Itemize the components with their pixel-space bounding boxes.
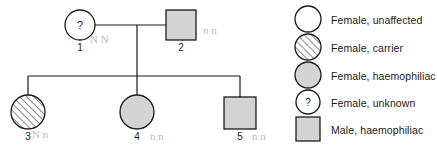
legend-entry-label-1: Female, unaffected [331,15,423,26]
legend-symbol-3 [295,62,321,88]
legend-entry-label-4: Female, unknown [331,98,415,109]
legend-entry-label-2: Female, carrier [331,43,403,54]
legend-symbol-2 [295,34,321,60]
legend-symbol-5 [296,117,320,141]
legend-question-mark-icon: ? [305,97,311,108]
pedigree-figure: ? 12345 N Nn nN nn nn n ? Female, unaffe… [0,0,437,145]
legend-entry-label-3: Female, haemophiliac [331,71,436,82]
legend-entry-label-5: Male, haemophiliac [331,125,423,136]
legend-symbols: ? [295,6,321,141]
legend-symbol-1 [295,6,321,32]
